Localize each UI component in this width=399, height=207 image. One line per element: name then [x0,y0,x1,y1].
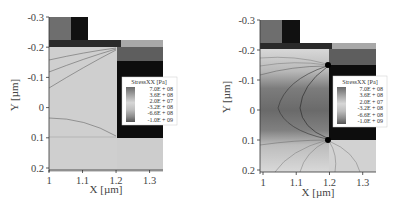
left-legend-entry: 2.0E + 07 [149,98,173,104]
left-y-tick-label: -0.3 [27,12,44,23]
right-corner-singularity [325,137,331,143]
right-legend-entry: -3.2E + 08 [357,105,383,111]
right-y-tick-label: 0.1 [242,135,255,146]
right-legend-entry: -1.0E + 09 [357,118,383,124]
left-x-tick-label: 1.3 [143,175,156,186]
right-lower-region [329,140,376,172]
right-ylabel: Y [µm] [220,81,232,114]
left-spacer-block [71,17,88,40]
right-plot: -0.3-0.2-0.100.10.211.11.21.3 Y [µm] X [… [220,15,387,199]
right-legend-entry: 2.0E + 07 [359,99,383,105]
left-y-tick-label: -0.2 [27,42,44,53]
right-y-tick-label: -0.3 [238,15,255,26]
right-x-tick-label: 1.3 [356,177,369,188]
right-y-tick-label: 0 [250,105,255,116]
right-top-band-light [332,43,376,49]
left-legend-title: StressXX [Pa] [131,78,167,85]
figure: -0.3-0.2-0.100.10.211.11.21.3 Y [µm] X [… [0,0,399,207]
left-top-band-light [121,40,163,47]
right-y-tick-label: -0.2 [238,45,255,56]
left-top-band [49,40,121,47]
right-legend-entry: 7.0E + 08 [359,86,383,92]
left-xlabel: X [µm] [90,183,123,195]
right-legend-title: StressXX [Pa] [342,78,378,85]
right-legend-entry: -6.6E + 08 [357,112,383,118]
right-legend-colorbar [337,87,346,124]
left-channel-region [49,47,117,172]
left-legend-colorbar [126,87,135,122]
left-legend-entry: -3.2E + 08 [147,104,173,110]
left-legend-entry: 7.0E + 08 [149,86,173,92]
right-y-tick-label: -0.1 [238,75,255,86]
left-y-tick-label: 0 [39,102,44,113]
left-y-tick-label: 0.1 [31,132,44,143]
right-right-grey [329,49,376,65]
right-x-tick-label: 1 [260,177,265,188]
right-top-band [260,43,332,49]
right-legend-entry: 3.6E + 08 [359,92,383,98]
left-y-tick-label: 0.2 [31,163,44,174]
right-legend: StressXX [Pa] 7.0E + 083.6E + 082.0E + 0… [333,76,387,127]
right-gate-block [260,20,282,43]
left-y-tick-label: -0.1 [27,72,44,83]
left-lower-region [117,138,163,172]
left-legend: StressXX [Pa] 7.0E + 083.6E + 082.0E + 0… [122,77,177,125]
right-legend-entries: 7.0E + 083.6E + 082.0E + 07-3.2E + 08-6.… [357,86,383,124]
left-gate-block [49,17,71,40]
left-legend-entry: -6.6E + 08 [147,110,173,116]
left-legend-entry: 3.6E + 08 [149,92,173,98]
right-y-tick-label: 0.2 [242,165,255,176]
left-legend-entry: -1.0E + 09 [147,117,173,123]
left-legend-entries: 7.0E + 083.6E + 082.0E + 07-3.2E + 08-6.… [147,86,173,123]
left-ylabel: Y [µm] [8,79,20,112]
left-x-tick-label: 1 [46,175,51,186]
left-x-tick-label: 1.1 [76,175,89,186]
left-plot: -0.3-0.2-0.100.10.211.11.21.3 Y [µm] X [… [8,12,177,196]
right-spacer-block [282,20,300,43]
left-right-grey [117,47,163,61]
right-corner-singularity [325,62,331,68]
right-xlabel: X [µm] [302,186,335,198]
